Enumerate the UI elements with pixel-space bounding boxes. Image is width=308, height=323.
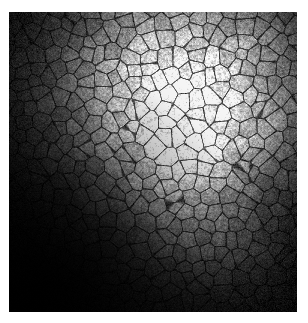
micrograph-frame: <div class="noscript-fallback" data-name… <box>9 12 297 312</box>
page-root: <div class="noscript-fallback" data-name… <box>0 0 308 323</box>
micrograph-canvas <box>9 12 297 312</box>
